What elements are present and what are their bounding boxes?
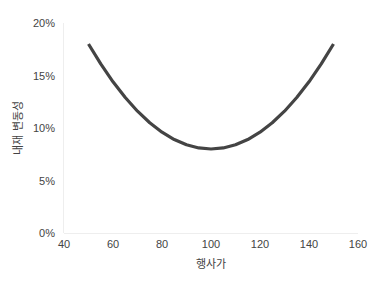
- y-tick-label: 10%: [33, 122, 55, 134]
- x-tick-label: 160: [349, 238, 367, 250]
- x-tick-labels: 406080100120140160: [58, 238, 367, 250]
- x-axis-label: 행사가: [196, 258, 226, 271]
- y-axis-label: 내재 변동성: [12, 101, 25, 155]
- axes: [64, 23, 359, 234]
- x-tick-label: 60: [107, 238, 119, 250]
- x-tick-label: 80: [156, 238, 168, 250]
- y-tick-label: 5%: [39, 175, 55, 187]
- volatility-smile-chart: 0%5%10%15%20% 406080100120140160 행사가 내재 …: [0, 0, 381, 291]
- y-tick-label: 0%: [39, 227, 55, 239]
- volatility-curve: [89, 44, 334, 149]
- y-tick-label: 15%: [33, 70, 55, 82]
- y-tick-labels: 0%5%10%15%20%: [33, 17, 55, 239]
- x-tick-label: 100: [202, 238, 220, 250]
- x-tick-label: 40: [58, 238, 70, 250]
- x-tick-label: 120: [251, 238, 269, 250]
- x-tick-label: 140: [300, 238, 318, 250]
- y-tick-label: 20%: [33, 17, 55, 29]
